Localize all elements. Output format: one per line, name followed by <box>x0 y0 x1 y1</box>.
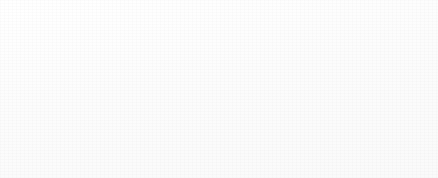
pie-slice-no[interactable] <box>220 50 222 85</box>
legend-label-no: no <box>238 139 250 150</box>
legend-swatch-icon-yes <box>192 142 197 147</box>
legend-label-yes: Yes <box>201 139 218 150</box>
pie-chart-plot-area <box>173 43 269 127</box>
legend-item-yes[interactable]: Yes <box>192 139 218 150</box>
legend-item-no[interactable]: no <box>229 139 250 150</box>
chart-frame: Shared an Interesting Video With a Frien… <box>12 11 428 167</box>
legend-swatch-icon-no <box>229 142 234 147</box>
chart-title: Shared an Interesting Video With a Frien… <box>13 23 429 37</box>
pie-chart-svg <box>173 43 269 127</box>
chart-legend: Yes no <box>13 139 429 150</box>
